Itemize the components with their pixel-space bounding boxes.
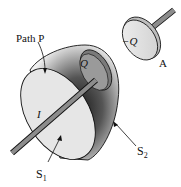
- label-s1: S1: [36, 167, 47, 183]
- label-plate-a: A: [159, 57, 167, 69]
- label-charge-q: Q: [80, 57, 88, 69]
- label-s2: S2: [137, 144, 148, 160]
- capacitor-surface-diagram: Path P Q −Q A I S1 S2: [0, 0, 181, 187]
- arrow-s2: [113, 121, 136, 146]
- diagram-canvas: Path P Q −Q A I S1 S2: [0, 0, 181, 187]
- label-path-p: Path P: [16, 32, 44, 44]
- label-charge-neg-q: −Q: [122, 35, 137, 47]
